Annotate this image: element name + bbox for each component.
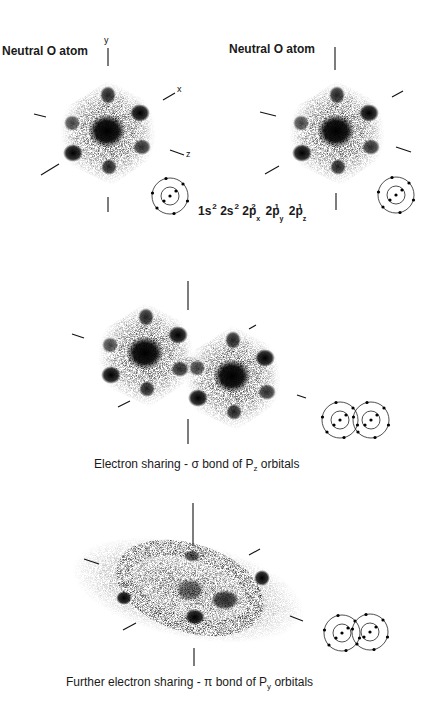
atom-cloud-left	[60, 81, 156, 185]
config-2pz: 2p1z	[289, 204, 307, 219]
bohr-diagram-left	[151, 177, 189, 215]
atom-cloud-right	[289, 81, 385, 185]
config-2s: 2s2	[220, 204, 239, 218]
sigma-bond-caption: Electron sharing - σ bond of Pz orbitals	[94, 457, 300, 473]
orbital-diagram-canvas	[0, 0, 440, 716]
axis-label-z: z	[186, 149, 191, 159]
bohr-diagram-right	[377, 176, 415, 214]
title-neutral-o-atom-left: Neutral O atom	[2, 44, 88, 58]
sigma-symbol: σ	[191, 457, 198, 471]
config-1s: 1s2	[198, 204, 217, 218]
sigma-bond-cloud	[98, 303, 281, 430]
bohr-diagram-sigma	[321, 401, 390, 439]
bohr-diagram-pi	[323, 613, 389, 652]
pi-bond-caption: Further electron sharing - π bond of Py …	[66, 675, 313, 691]
config-2py: 2p1y	[266, 204, 284, 219]
config-2px: 2p2x	[242, 204, 260, 219]
pi-bond-cloud	[63, 519, 314, 662]
axis-label-x: x	[177, 84, 182, 94]
electron-configuration: 1s2 2s2 2p2x 2p1y 2p1z	[198, 202, 308, 219]
title-neutral-o-atom-right: Neutral O atom	[229, 42, 315, 56]
axis-label-y: y	[104, 35, 109, 45]
